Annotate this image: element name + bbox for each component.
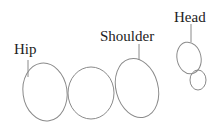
torso-oval xyxy=(68,67,114,119)
head-label: Head xyxy=(174,10,206,25)
hip-label: Hip xyxy=(14,42,37,57)
hip-oval xyxy=(19,60,71,124)
figure-diagram: Hip Shoulder Head xyxy=(0,0,223,129)
shoulder-oval xyxy=(109,54,165,123)
neck-oval xyxy=(190,70,206,90)
head-oval xyxy=(174,40,204,76)
shoulder-label: Shoulder xyxy=(100,29,154,44)
